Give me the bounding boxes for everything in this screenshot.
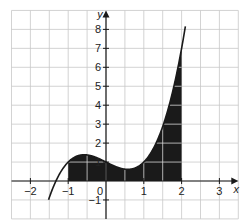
x-tick-label: 1 bbox=[141, 185, 147, 197]
y-tick-label: 3 bbox=[95, 118, 101, 130]
x-tick-label: −2 bbox=[24, 185, 37, 197]
y-tick-label: 2 bbox=[95, 137, 101, 149]
function-graph: −2−11230−112345678xy bbox=[0, 0, 242, 221]
x-tick-label: 2 bbox=[179, 185, 185, 197]
y-tick-label: −1 bbox=[88, 194, 101, 206]
x-tick-label: 3 bbox=[216, 185, 222, 197]
y-tick-label: 6 bbox=[95, 61, 101, 73]
y-tick-label: 8 bbox=[95, 23, 101, 35]
y-tick-label: 5 bbox=[95, 80, 101, 92]
y-axis-arrow-icon bbox=[103, 10, 110, 17]
y-tick-label: 4 bbox=[95, 99, 101, 111]
y-tick-label: 7 bbox=[95, 42, 101, 54]
x-tick-label: −1 bbox=[62, 185, 75, 197]
x-axis-label: x bbox=[233, 183, 240, 195]
y-tick-label: 1 bbox=[95, 156, 101, 168]
grid-lines bbox=[12, 10, 239, 218]
